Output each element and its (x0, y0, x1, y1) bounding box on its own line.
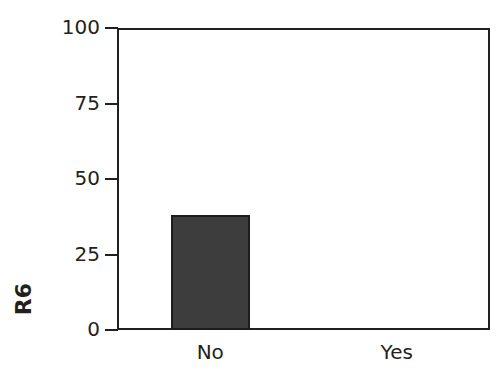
y-axis-tick-label: 100 (30, 17, 100, 37)
y-axis-tick-label: 0 (30, 319, 100, 339)
bar-no (171, 215, 250, 330)
y-axis-tick-label: 50 (30, 168, 100, 188)
y-axis-tick-label: 25 (30, 244, 100, 264)
x-axis-tick-label: Yes (337, 341, 457, 363)
y-axis-tick-label: 75 (30, 93, 100, 113)
bar-chart: R6 0255075100 NoYes (0, 0, 498, 372)
x-axis-tick-label: No (150, 341, 270, 363)
plot-area (117, 28, 490, 330)
